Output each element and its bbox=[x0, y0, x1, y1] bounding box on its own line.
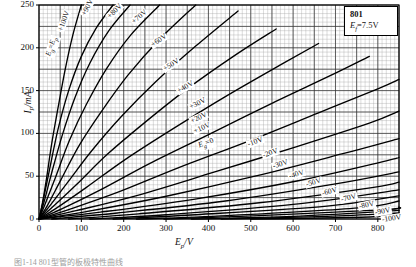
x-tick-label: 700 bbox=[315, 223, 355, 233]
y-tick-label: 200 bbox=[8, 42, 34, 52]
legend-box: 801 Ef=7.5V bbox=[344, 6, 398, 36]
legend-filament: Ef=7.5V bbox=[350, 20, 397, 34]
x-tick-label: 600 bbox=[273, 223, 313, 233]
x-tick-label: 400 bbox=[188, 223, 228, 233]
legend-tube-type: 801 bbox=[350, 9, 397, 20]
y-axis-label: Ip/mA bbox=[23, 72, 36, 132]
x-tick-label: 100 bbox=[61, 223, 101, 233]
x-tick-label: 200 bbox=[104, 223, 144, 233]
y-tick-label: 100 bbox=[8, 127, 34, 137]
y-tick-label: 50 bbox=[8, 170, 34, 180]
y-axis-symbol: I bbox=[23, 110, 33, 113]
filament-value: =7.5V bbox=[357, 20, 379, 30]
y-tick-label: 0 bbox=[8, 213, 34, 223]
y-axis-subscript: p bbox=[27, 107, 35, 111]
x-tick-label: 300 bbox=[146, 223, 186, 233]
x-axis-unit: /V bbox=[184, 237, 192, 247]
x-axis-label: Ep/V bbox=[175, 237, 193, 250]
figure-caption: 图1-14 801型管的板极特性曲线 bbox=[14, 256, 123, 267]
y-tick-label: 250 bbox=[8, 0, 34, 9]
x-tick-label: 800 bbox=[358, 223, 398, 233]
x-tick-label: 0 bbox=[19, 223, 59, 233]
x-tick-label: 500 bbox=[231, 223, 271, 233]
y-tick-label: 150 bbox=[8, 85, 34, 95]
